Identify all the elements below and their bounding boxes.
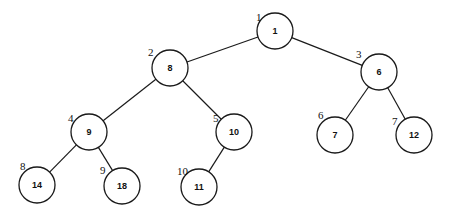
node-value: 18	[117, 181, 127, 191]
node-value: 10	[229, 127, 239, 137]
tree-node: 148	[19, 160, 55, 203]
edges-layer	[50, 37, 406, 172]
nodes-layer: 11826394105761271481891110	[19, 11, 432, 205]
tree-canvas: 11826394105761271481891110	[0, 0, 451, 218]
tree-node: 63	[356, 48, 397, 90]
tree-node: 189	[100, 164, 140, 204]
node-index-label: 6	[318, 109, 324, 121]
tree-edge	[345, 87, 368, 120]
node-value: 1	[272, 26, 277, 36]
tree-edge	[209, 147, 225, 172]
tree-node: 127	[392, 115, 432, 153]
node-index-label: 7	[392, 115, 398, 127]
node-value: 12	[409, 130, 419, 140]
node-value: 9	[86, 127, 91, 137]
node-index-label: 5	[213, 112, 219, 124]
node-value: 6	[376, 67, 381, 77]
node-value: 8	[167, 63, 172, 73]
tree-edge	[103, 79, 156, 121]
node-index-label: 1	[256, 11, 262, 23]
node-index-label: 2	[148, 46, 154, 58]
tree-node: 1110	[177, 165, 217, 205]
node-index-label: 9	[100, 164, 106, 176]
node-value: 7	[332, 130, 337, 140]
tree-node: 76	[317, 109, 353, 153]
tree-edge	[292, 38, 363, 66]
node-index-label: 10	[177, 165, 189, 177]
tree-node: 105	[213, 112, 252, 150]
node-index-label: 4	[68, 112, 74, 124]
tree-node: 94	[68, 112, 107, 150]
tree-edge	[50, 145, 77, 172]
node-value: 14	[32, 180, 42, 190]
node-index-label: 3	[356, 48, 362, 60]
tree-node: 11	[256, 11, 293, 49]
tree-edge	[187, 37, 258, 62]
node-value: 11	[194, 182, 204, 192]
node-index-label: 8	[20, 160, 26, 172]
tree-diagram: 11826394105761271481891110	[0, 0, 451, 218]
